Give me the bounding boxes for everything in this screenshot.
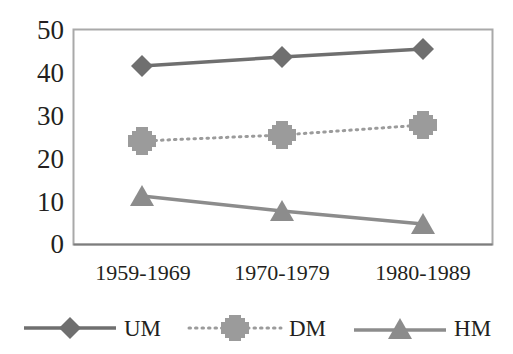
line-chart: 50 40 30 20 10 0 [0, 0, 513, 354]
x-axis-tick-label: 1959-1969 [62, 262, 224, 284]
square-star-marker-icon [409, 111, 437, 139]
square-star-marker-icon [268, 121, 296, 149]
legend-item-dm: DM [187, 315, 326, 341]
legend-item-hm: HM [352, 315, 491, 341]
diamond-marker-icon [412, 38, 434, 60]
legend-label-hm: HM [454, 317, 491, 340]
legend-label-um: UM [124, 317, 161, 340]
diamond-marker-icon [131, 55, 153, 77]
diamond-marker-icon [271, 46, 293, 68]
series-dm [128, 111, 437, 155]
x-axis-tick-label: 1970-1979 [201, 262, 363, 284]
legend-item-um: UM [22, 315, 161, 341]
legend-sample-dm [187, 315, 283, 341]
legend-label-dm: DM [289, 317, 326, 340]
square-star-marker-icon [221, 315, 249, 341]
diamond-marker-icon [59, 317, 81, 339]
chart-legend: UM DM HM [0, 308, 513, 348]
series-um [131, 38, 434, 77]
series-hm [130, 185, 435, 234]
square-star-marker-icon [128, 127, 156, 155]
x-axis-tick-label: 1980-1989 [342, 262, 504, 284]
legend-sample-hm [352, 315, 448, 341]
legend-sample-um [22, 315, 118, 341]
plot-area [0, 0, 513, 354]
